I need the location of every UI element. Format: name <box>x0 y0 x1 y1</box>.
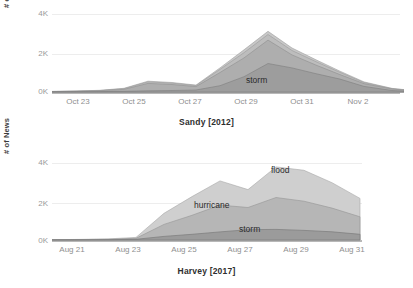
x-tick-sandy-4: Oct 31 <box>280 97 324 106</box>
x-tick-sandy-0: Oct 23 <box>56 97 100 106</box>
chart-panel-sandy: # of News 4K 2K 0K storm Oct 23 Oct 25 O… <box>0 0 413 144</box>
x-tick-harvey-5: Aug 31 <box>330 245 374 254</box>
y-tick-4k-harvey: 4K <box>26 159 48 167</box>
stacked-area-svg-harvey <box>52 144 364 244</box>
x-tick-sandy-5: Nov 2 <box>336 97 380 106</box>
x-tick-harvey-1: Aug 23 <box>106 245 150 254</box>
series-label-storm-sandy: storm <box>246 75 267 85</box>
plot-area-sandy <box>52 0 404 96</box>
series-label-hurricane-harvey: hurricane <box>194 200 229 210</box>
y-axis-title-sandy: # of News <box>2 0 16 22</box>
x-tick-harvey-4: Aug 29 <box>274 245 318 254</box>
y-tick-4k-sandy: 4K <box>26 10 48 18</box>
series-label-storm-harvey: storm <box>239 224 260 234</box>
y-tick-2k-harvey: 2K <box>26 200 48 208</box>
y-tick-0k-harvey: 0K <box>26 237 48 245</box>
chart-title-harvey: Harvey [2017] <box>0 266 413 276</box>
series-label-flood-harvey: flood <box>271 165 289 175</box>
x-tick-sandy-2: Oct 27 <box>168 97 212 106</box>
x-tick-sandy-3: Oct 29 <box>224 97 268 106</box>
x-tick-harvey-0: Aug 21 <box>50 245 94 254</box>
y-tick-0k-sandy: 0K <box>26 88 48 96</box>
figure-root: # of News 4K 2K 0K storm Oct 23 Oct 25 O… <box>0 0 413 288</box>
stacked-area-svg-sandy <box>52 0 404 96</box>
x-tick-harvey-3: Aug 27 <box>218 245 262 254</box>
chart-title-sandy: Sandy [2012] <box>0 117 413 127</box>
x-tick-sandy-1: Oct 25 <box>112 97 156 106</box>
plot-area-harvey <box>52 144 364 244</box>
y-axis-title-harvey: # of News <box>2 104 16 168</box>
x-tick-harvey-2: Aug 25 <box>162 245 206 254</box>
chart-panel-harvey: # of News 4K 2K 0K flood hurricane storm… <box>0 144 413 288</box>
y-tick-2k-sandy: 2K <box>26 50 48 58</box>
